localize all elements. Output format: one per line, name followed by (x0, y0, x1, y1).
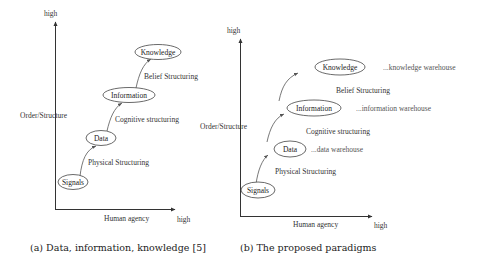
annotation-information-warehouse: ...information warehouse (356, 104, 432, 113)
node-knowledge-b: Knowledge (315, 59, 365, 75)
svg-text:Signals: Signals (62, 178, 84, 187)
node-data-b: Data (274, 141, 306, 157)
edge-data-information-b (267, 114, 284, 142)
y-axis-high-label-b: high (227, 26, 241, 35)
transition-cognitive-b: Cognitive structuring (306, 127, 370, 136)
x-axis-high-label-b: high (374, 221, 388, 230)
y-axis-label-b: Order/Structure (200, 122, 248, 131)
figure-canvas: high Order/Structure Human agency high P… (0, 0, 479, 266)
caption-a: (a) Data, information, knowledge [5] (30, 242, 206, 253)
subfigure-b: high Order/Structure Human agency high P… (200, 26, 456, 253)
edge-information-knowledge-b (279, 73, 298, 101)
edge-signals-data-b (256, 155, 268, 184)
y-axis-label-a: Order/Structure (20, 111, 68, 120)
x-axis-high-label-a: high (177, 215, 191, 224)
svg-text:Knowledge: Knowledge (141, 48, 176, 57)
subfigure-a: high Order/Structure Human agency high P… (20, 9, 206, 253)
svg-text:Data: Data (94, 134, 109, 143)
node-information-b: Information (287, 100, 341, 116)
annotation-knowledge-warehouse: ...knowledge warehouse (383, 63, 456, 72)
x-axis-label-b: Human agency (293, 220, 338, 229)
node-knowledge-a: Knowledge (135, 45, 181, 60)
svg-text:Information: Information (296, 104, 332, 113)
node-signals-a: Signals (58, 175, 88, 190)
node-signals-b: Signals (241, 182, 275, 198)
transition-physical-b: Physical Structuring (275, 167, 336, 176)
annotation-data-warehouse: ...data warehouse (311, 145, 364, 154)
svg-text:Knowledge: Knowledge (323, 63, 358, 72)
y-axis-high-label-a: high (44, 9, 58, 18)
node-information-a: Information (103, 88, 155, 103)
transition-cognitive-a: Cognitive structuring (115, 115, 179, 124)
caption-b: (b) The proposed paradigms (240, 242, 377, 253)
svg-text:Data: Data (283, 145, 298, 154)
svg-text:Information: Information (111, 91, 147, 100)
transition-belief-a: Belief Structuring (144, 72, 198, 81)
x-axis-label-a: Human agency (104, 214, 149, 223)
transition-belief-b: Belief Structuring (336, 86, 390, 95)
transition-physical-a: Physical Structuring (88, 158, 149, 167)
node-data-a: Data (86, 131, 116, 146)
svg-text:Signals: Signals (247, 186, 269, 195)
